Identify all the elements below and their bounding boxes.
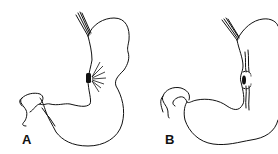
radiating-folds-icon [92,62,106,92]
panel-label-b: B [165,133,174,146]
stomach-drawing-b [139,0,278,154]
panel-a: A [0,0,139,154]
stomach-drawing-a [0,0,139,154]
ulcer-crater-icon [86,73,91,83]
ulcer-scar-icon [242,76,246,85]
panel-label-a: A [22,133,31,146]
panel-b: B [139,0,278,154]
